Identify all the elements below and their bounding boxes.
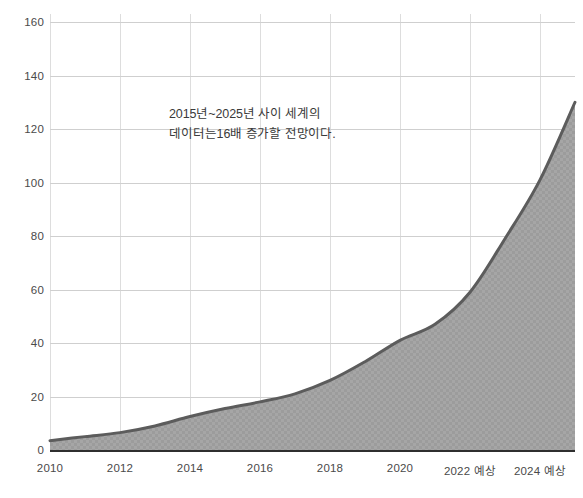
y-tick-label-40: 40 <box>31 337 44 349</box>
y-tick-label-160: 160 <box>24 16 44 28</box>
y-axis-labels: 020406080100120140160 <box>0 14 44 458</box>
area-fill <box>50 102 575 450</box>
y-tick-label-100: 100 <box>24 177 44 189</box>
x-tick-label-2014: 2014 <box>177 462 203 474</box>
x-tick-label-2016: 2016 <box>247 462 273 474</box>
x-tick-label-2018: 2018 <box>317 462 343 474</box>
area-series <box>50 14 575 458</box>
y-tick-label-0: 0 <box>37 444 44 456</box>
y-tick-label-60: 60 <box>31 284 44 296</box>
x-tick-label-2010: 2010 <box>37 462 63 474</box>
x-tick-label-2012: 2012 <box>107 462 133 474</box>
x-axis-labels: 2010201220142016201820202022 예상2024 예상 <box>50 462 575 484</box>
x-tick-label-2022: 2022 예상 <box>444 462 496 478</box>
chart-annotation: 2015년~2025년 사이 세계의 데이터는16배 증가할 전망이다. <box>169 104 336 144</box>
chart-container: 020406080100120140160 201020122014201620… <box>0 0 583 498</box>
x-tick-label-2024: 2024 예상 <box>514 462 566 478</box>
y-tick-label-140: 140 <box>24 70 44 82</box>
plot-area <box>50 14 575 458</box>
x-tick-label-2020: 2020 <box>387 462 413 474</box>
y-tick-label-20: 20 <box>31 391 44 403</box>
y-tick-label-120: 120 <box>24 123 44 135</box>
y-tick-label-80: 80 <box>31 230 44 242</box>
